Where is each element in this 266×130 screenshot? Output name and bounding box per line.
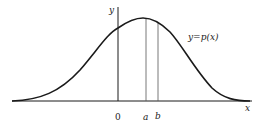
tick-label-a: a <box>143 112 148 122</box>
curve-label: y=p(x) <box>187 32 219 42</box>
density-diagram: y x 0 a b y=p(x) <box>0 0 266 130</box>
tick-label-b: b <box>155 111 161 121</box>
origin-label: 0 <box>115 112 121 122</box>
density-curve <box>12 18 250 101</box>
x-axis-label: x <box>245 103 250 113</box>
y-axis-label: y <box>108 5 115 15</box>
